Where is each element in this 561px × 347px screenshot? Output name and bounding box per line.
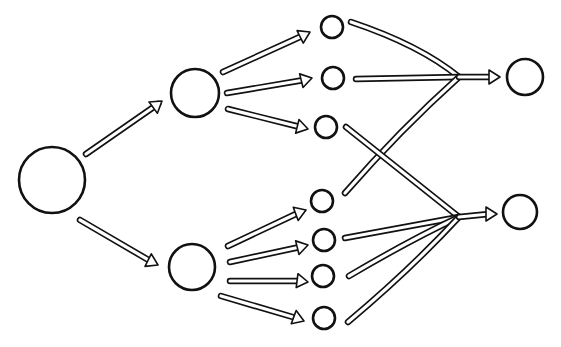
arrowhead-icon <box>486 207 497 221</box>
arrow-mid_top-to-leaf_t3 <box>228 109 308 133</box>
arrowhead-icon <box>291 311 304 324</box>
network-diagram <box>0 0 561 347</box>
node-root <box>19 147 85 213</box>
arrow-root-to-mid_top <box>86 101 162 154</box>
merge-to-out_top <box>345 22 500 193</box>
node-leaf_t3 <box>315 116 337 138</box>
node-leaf_t1 <box>321 16 343 38</box>
arrow-mid_bottom-to-leaf_b4 <box>221 296 304 324</box>
edge-leaf_t2-to-out_top <box>356 77 459 79</box>
arrowhead-icon <box>293 207 306 220</box>
arrowhead-icon <box>296 120 308 134</box>
edges-layer <box>80 22 500 324</box>
arrow-root-to-mid_bottom <box>80 220 158 266</box>
arrowhead-icon <box>489 70 500 84</box>
arrow-mid_top-to-leaf_t1 <box>223 31 310 72</box>
merge-output-out_bottom <box>459 214 489 217</box>
node-leaf_b1 <box>311 190 333 212</box>
arrowhead-icon <box>296 241 308 255</box>
node-leaf_t2 <box>322 67 344 89</box>
node-mid_top <box>171 69 219 117</box>
arrow-mid_bottom-to-leaf_b1 <box>228 207 306 246</box>
node-leaf_b4 <box>313 307 335 329</box>
arrowhead-icon <box>300 74 312 88</box>
node-mid_bottom <box>169 244 215 290</box>
node-out_bottom <box>503 195 537 229</box>
node-out_top <box>507 59 543 95</box>
edge-leaf_t1-to-out_top <box>351 22 459 77</box>
arrowhead-icon <box>296 274 308 288</box>
arrow-mid_bottom-to-leaf_b3 <box>230 274 308 288</box>
arrow-mid_bottom-to-leaf_b2 <box>230 241 308 262</box>
arrow-mid_top-to-leaf_t2 <box>227 74 312 93</box>
node-leaf_b3 <box>312 265 334 287</box>
merge-to-out_bottom <box>345 127 497 322</box>
node-leaf_b2 <box>313 229 335 251</box>
